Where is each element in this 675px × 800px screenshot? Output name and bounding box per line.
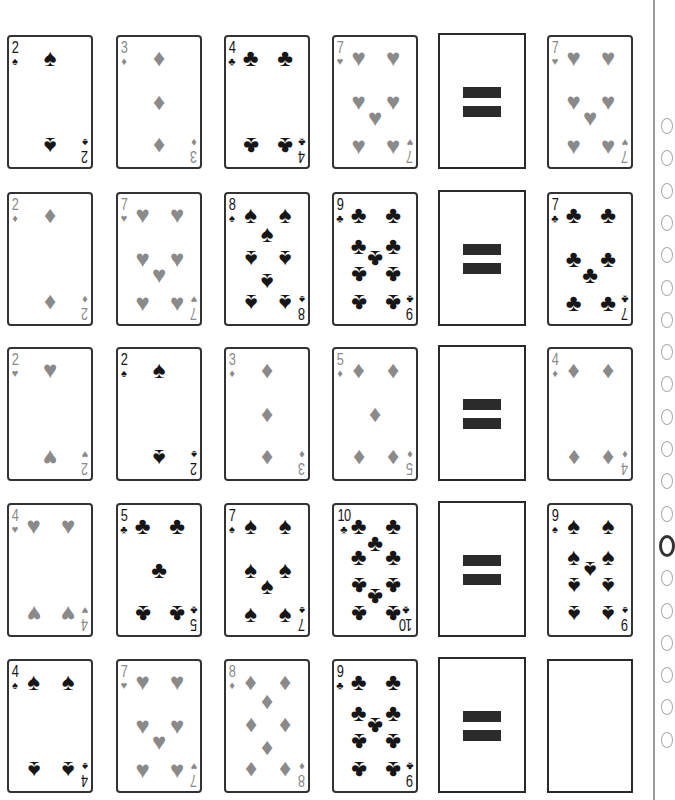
card-index-tl: 8♦: [228, 664, 236, 691]
answer-bubble[interactable]: [661, 409, 673, 425]
card-rank: 4: [82, 772, 88, 788]
card-rank: 4: [229, 40, 235, 56]
diamonds-pip-icon: ♦: [369, 402, 381, 426]
card-index-tl: 7♥: [551, 40, 559, 67]
equals-box: [438, 657, 526, 793]
hearts-icon: ♥: [12, 524, 19, 535]
card-index-tl: 9♣: [336, 664, 344, 691]
hearts-pip-icon: ♥: [135, 670, 149, 694]
card-index-br: 3♦: [190, 137, 198, 164]
playing-card: 4♥4♥♥♥♥♥: [7, 503, 93, 637]
clubs-icon: ♣: [621, 294, 628, 305]
diamonds-pip-icon: ♦: [244, 714, 256, 738]
diamonds-icon: ♦: [552, 368, 558, 379]
clubs-icon: ♣: [406, 761, 413, 772]
answer-bubble[interactable]: [659, 535, 675, 557]
answer-bubble[interactable]: [661, 312, 673, 328]
answer-bubble[interactable]: [661, 376, 673, 392]
answer-bubble[interactable]: [661, 699, 673, 715]
diamonds-icon: ♦: [229, 680, 235, 691]
answer-bubble[interactable]: [661, 667, 673, 683]
playing-card: 2♠2♠♠♠: [116, 347, 202, 481]
spades-pip-icon: ♠: [153, 358, 166, 382]
equals-sign-icon: [463, 555, 501, 566]
clubs-pip-icon: ♣: [385, 602, 401, 626]
hearts-icon: ♥: [12, 368, 19, 379]
card-index-br: 5♦: [406, 449, 414, 476]
spades-pip-icon: ♠: [62, 758, 75, 782]
hearts-pip-icon: ♥: [386, 90, 400, 114]
answer-bubble[interactable]: [661, 473, 673, 489]
answer-bubble[interactable]: [661, 247, 673, 263]
clubs-icon: ♣: [551, 213, 558, 224]
puzzle-row-5: 4♠4♠♠♠♠♠7♥7♥♥♥♥♥♥♥♥8♦8♦♦♦♦♦♦♦♦♦9♣9♣♣♣♣♣♣…: [0, 659, 650, 793]
card-rank: 7: [552, 197, 558, 213]
answer-bubble[interactable]: [661, 118, 673, 134]
card-rank: 8: [229, 664, 235, 680]
spades-pip-icon: ♠: [567, 545, 580, 569]
hearts-pip-icon: ♥: [135, 247, 149, 271]
card-index-tl: 4♥: [11, 508, 19, 535]
card-rank: 9: [407, 772, 413, 788]
playing-card: 7♥7♥♥♥♥♥♥♥♥: [116, 659, 202, 793]
card-index-br: 7♥: [190, 761, 198, 788]
equals-box: [438, 190, 526, 326]
hearts-pip-icon: ♥: [43, 446, 57, 470]
answer-bubble[interactable]: [661, 344, 673, 360]
spades-icon: ♠: [191, 449, 197, 460]
answer-bubble[interactable]: [661, 603, 673, 619]
card-rank: 7: [121, 664, 127, 680]
card-rank: 5: [121, 508, 127, 524]
spades-pip-icon: ♠: [44, 134, 57, 158]
playing-card: 2♠2♠♠♠: [7, 35, 93, 169]
answer-bubble[interactable]: [661, 570, 673, 586]
hearts-pip-icon: ♥: [351, 46, 365, 70]
equals-sign-icon: [463, 263, 501, 274]
card-rank: 4: [12, 664, 18, 680]
result-card: 4♦4♦♦♦♦♦: [547, 347, 633, 481]
answer-bubble[interactable]: [661, 183, 673, 199]
hearts-pip-icon: ♥: [351, 90, 365, 114]
card-rank: 2: [191, 460, 197, 476]
card-rank: 5: [407, 460, 413, 476]
card-index-tl: 9♣: [336, 197, 344, 224]
card-index-br: 4♥: [81, 605, 89, 632]
hearts-pip-icon: ♥: [152, 263, 166, 287]
clubs-pip-icon: ♣: [351, 701, 367, 725]
clubs-pip-icon: ♣: [600, 291, 616, 315]
answer-bubble[interactable]: [661, 280, 673, 296]
card-index-br: 5♣: [190, 605, 198, 632]
equals-sign-icon: [463, 106, 501, 117]
diamonds-pip-icon: ♦: [153, 134, 165, 158]
diamonds-pip-icon: ♦: [44, 203, 56, 227]
clubs-pip-icon: ♣: [367, 585, 383, 609]
card-rank: 7: [622, 148, 628, 164]
hearts-icon: ♥: [121, 680, 128, 691]
spades-pip-icon: ♠: [244, 203, 257, 227]
card-rank: 2: [12, 352, 18, 368]
spades-pip-icon: ♠: [602, 602, 615, 626]
answer-bubble[interactable]: [661, 506, 673, 522]
answer-bubble[interactable]: [661, 635, 673, 651]
diamonds-pip-icon: ♦: [352, 446, 364, 470]
clubs-pip-icon: ♣: [566, 203, 582, 227]
hearts-pip-icon: ♥: [135, 203, 149, 227]
answer-bubble[interactable]: [661, 215, 673, 231]
diamonds-icon: ♦: [229, 368, 235, 379]
hearts-pip-icon: ♥: [26, 514, 40, 538]
diamonds-pip-icon: ♦: [352, 358, 364, 382]
card-rank: 10: [400, 616, 413, 632]
answer-card-slot[interactable]: [547, 659, 633, 793]
spades-pip-icon: ♠: [279, 203, 292, 227]
card-rank: 8: [299, 772, 305, 788]
clubs-pip-icon: ♣: [385, 514, 401, 538]
answer-bubble[interactable]: [661, 732, 673, 748]
clubs-icon: ♣: [340, 524, 347, 535]
answer-bubble[interactable]: [661, 150, 673, 166]
clubs-pip-icon: ♣: [351, 203, 367, 227]
clubs-icon: ♣: [336, 213, 343, 224]
card-rank: 3: [229, 352, 235, 368]
answer-bubble[interactable]: [661, 441, 673, 457]
spades-icon: ♠: [552, 524, 558, 535]
card-rank: 7: [191, 305, 197, 321]
